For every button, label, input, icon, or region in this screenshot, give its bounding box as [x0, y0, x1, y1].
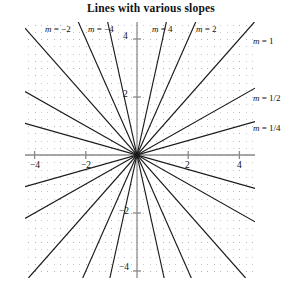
data-lines-layer: [25, 22, 255, 278]
y-tick-label-0: 4: [123, 31, 128, 41]
slope-value: = 2: [203, 24, 217, 34]
data-line: [28, 22, 254, 278]
slope-label-m-quarter: m = 1/4: [253, 123, 281, 133]
x-tick-label-0: −4: [30, 160, 40, 170]
data-line: [25, 28, 246, 278]
slope-label-m-half: m = 1/2: [253, 93, 281, 103]
plot-area: [25, 22, 255, 278]
y-tick-label-1: 2: [123, 89, 128, 99]
y-tick-label-3: −4: [119, 262, 129, 272]
slope-value: = 4: [159, 24, 173, 34]
slope-label-m-pos-4: m = 4: [152, 24, 173, 34]
slope-label-m-pos-1: m = 1: [253, 36, 274, 46]
figure-root: Lines with various slopes m = −2m = −4m …: [0, 0, 302, 289]
slope-label-m-pos-2: m = 2: [196, 24, 217, 34]
x-tick-label-3: 4: [237, 160, 242, 170]
slope-label-m-neg-2: m = −2: [45, 24, 71, 34]
slope-value: = −4: [95, 24, 114, 34]
data-line: [83, 22, 196, 278]
slope-value: = 1/4: [260, 123, 281, 133]
data-line: [25, 88, 255, 218]
data-line: [25, 92, 255, 222]
data-line: [25, 123, 255, 188]
slope-value: = −2: [52, 24, 71, 34]
slope-value: = 1: [260, 36, 274, 46]
data-line: [78, 22, 191, 278]
x-tick-label-1: −2: [81, 160, 91, 170]
x-tick-label-2: 2: [185, 160, 190, 170]
slope-value: = 1/2: [260, 93, 281, 103]
chart-title: Lines with various slopes: [0, 2, 302, 14]
slope-label-m-neg-4: m = −4: [88, 24, 114, 34]
data-line: [25, 122, 255, 187]
y-tick-label-2: −2: [119, 206, 129, 216]
